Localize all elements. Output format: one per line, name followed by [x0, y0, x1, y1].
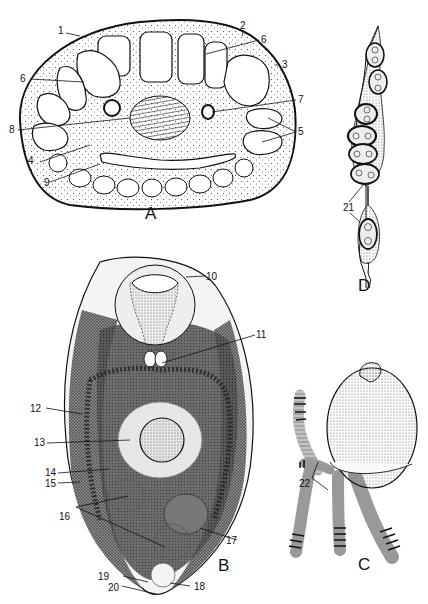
panel-label-c: C	[358, 556, 370, 573]
label-13: 13	[34, 438, 45, 448]
label-3: 3	[282, 60, 288, 70]
label-17: 17	[226, 536, 237, 546]
label-18: 18	[194, 582, 205, 592]
panel-b-body	[46, 257, 255, 594]
label-19: 19	[98, 572, 109, 582]
label-16: 16	[59, 512, 70, 522]
panel-a-cross-section	[18, 20, 296, 209]
label-2: 2	[240, 21, 246, 31]
label-7: 7	[298, 95, 304, 105]
label-6a: 6	[261, 35, 267, 45]
label-9: 9	[44, 178, 50, 188]
label-10: 10	[206, 272, 217, 282]
label-21: 21	[343, 203, 354, 213]
panel-label-a: A	[145, 205, 156, 222]
panel-label-d: D	[358, 277, 370, 294]
label-14: 14	[45, 468, 56, 478]
label-11: 11	[256, 330, 266, 340]
label-15: 15	[45, 479, 56, 489]
label-6b: 6	[20, 74, 26, 84]
label-20: 20	[108, 583, 119, 593]
label-12: 12	[30, 404, 41, 414]
label-5: 5	[298, 127, 304, 137]
label-4: 4	[28, 156, 34, 166]
panel-d-egg-chain	[348, 26, 387, 288]
label-1: 1	[58, 26, 64, 36]
panel-label-b: B	[218, 557, 229, 574]
label-8: 8	[9, 125, 15, 135]
label-22: 22	[299, 479, 310, 489]
panel-c-appendaged-body	[289, 363, 417, 557]
